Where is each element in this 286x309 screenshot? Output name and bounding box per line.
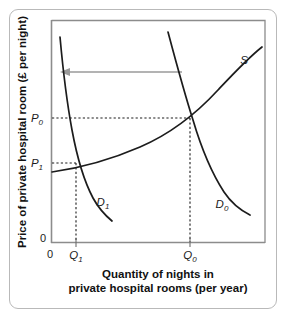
demand-initial-label-sub: 0 [224, 204, 229, 213]
price-high-label-sub: 0 [39, 118, 44, 127]
origin-label-y: 0 [40, 232, 46, 244]
plot-frame-top-right [52, 21, 266, 244]
demand-curve-shifted [60, 37, 112, 221]
demand-initial-label-base: D [216, 198, 224, 210]
quantity-high-label: Q0 [183, 249, 197, 264]
quantity-high-label-sub: 0 [192, 255, 197, 264]
y-axis-title: Price of private hospital room (£ per ni… [16, 16, 28, 248]
origin-label-x: 0 [47, 248, 53, 260]
demand-shifted-label-sub: 1 [105, 202, 109, 211]
price-high-label: P0 [31, 112, 44, 127]
quantity-low-label: Q1 [69, 249, 82, 264]
demand-initial-label: D0 [216, 198, 229, 213]
price-low-label: P1 [31, 157, 43, 172]
demand-shift-arrow-head [60, 68, 70, 76]
demand-shifted-label-base: D [97, 196, 105, 208]
price-low-label-sub: 1 [39, 163, 43, 172]
supply-curve [52, 47, 262, 172]
x-axis-title-line1: Quantity of nights in [102, 268, 214, 280]
quantity-low-label-base: Q [69, 249, 78, 261]
supply-curve-label: S [240, 54, 248, 66]
quantity-low-label-sub: 1 [78, 255, 82, 264]
x-axis-title-line2: private hospital rooms (per year) [69, 282, 248, 294]
quantity-high-label-base: Q [183, 249, 192, 261]
demand-shifted-label: D1 [97, 196, 110, 211]
